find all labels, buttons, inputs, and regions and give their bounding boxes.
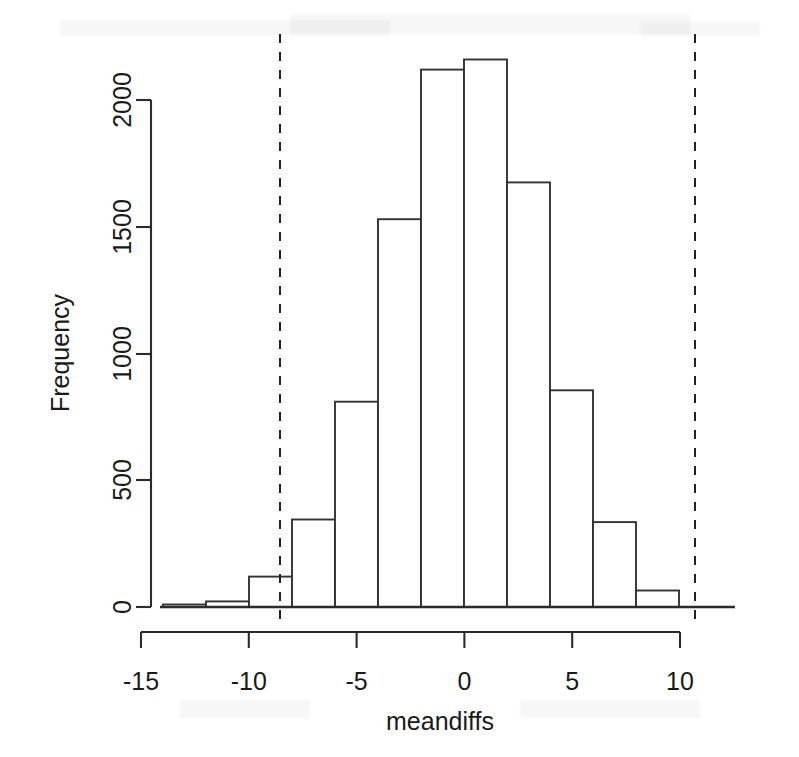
x-ticklabel--10: -10: [231, 667, 267, 695]
y-ticklabel-0: 0: [108, 600, 136, 614]
y-ticklabel-2000: 2000: [108, 72, 136, 128]
x-axis-title: meandiffs: [386, 707, 494, 735]
table-row: [464, 60, 507, 608]
x-ticklabel-10: 10: [666, 667, 694, 695]
histogram-bars: [163, 60, 679, 608]
x-axis: -15 -10 -5 0 5 10 meandiffs: [123, 632, 694, 735]
x-ticklabel-5: 5: [565, 667, 579, 695]
table-row: [378, 219, 421, 607]
table-row: [507, 182, 550, 607]
histogram-figure: 2000 1500 1000 500 0 Frequency: [0, 0, 799, 757]
y-axis: 2000 1500 1000 500 0 Frequency: [46, 72, 151, 614]
histogram-plot: 2000 1500 1000 500 0 Frequency: [0, 0, 799, 757]
y-ticklabel-1000: 1000: [108, 326, 136, 382]
y-axis-title: Frequency: [46, 293, 74, 412]
y-ticklabel-500: 500: [108, 459, 136, 501]
y-ticklabel-1500: 1500: [108, 199, 136, 255]
table-row: [292, 520, 335, 608]
table-row: [335, 402, 378, 607]
x-ticklabel--15: -15: [123, 667, 159, 695]
table-row: [249, 577, 292, 607]
table-row: [550, 390, 593, 607]
table-row: [421, 70, 464, 607]
x-ticklabel--5: -5: [345, 667, 367, 695]
table-row: [593, 522, 636, 607]
table-row: [636, 591, 679, 608]
x-ticklabel-0: 0: [457, 667, 471, 695]
